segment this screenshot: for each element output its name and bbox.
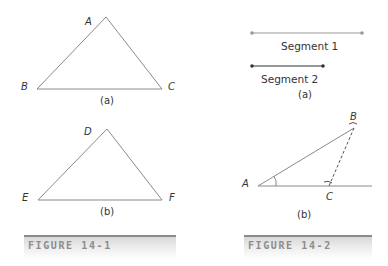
arc-mark-c (324, 181, 332, 183)
subfigure-label-2b: (b) (297, 209, 311, 220)
vertex-label-d: D (84, 126, 92, 137)
vertex-label-f: F (169, 192, 175, 203)
segment1-label: Segment 1 (281, 40, 338, 52)
arc-mark-b (349, 123, 357, 125)
figure-14-1-caption-bar: FIGURE 14-1 (24, 235, 176, 259)
triangle-abc: A B C (a) (21, 16, 175, 106)
subfigure-label-a: (a) (100, 95, 114, 106)
vertex-label-b: B (21, 81, 28, 92)
figures-canvas: A B C (a) D E F (b) Segment 1 Segment 2 … (0, 0, 388, 266)
segment1-endpoint (250, 31, 254, 35)
point-label-b: B (350, 111, 357, 122)
point-label-a: A (241, 178, 249, 189)
vertex-label-a: A (84, 16, 92, 27)
subfigure-label-b: (b) (100, 206, 114, 217)
figure-14-2-caption: FIGURE 14-2 (248, 240, 332, 251)
subfigure-label-2a: (a) (298, 89, 312, 100)
angle-arc (274, 176, 276, 186)
figure-14-2-caption-bar: FIGURE 14-2 (244, 235, 372, 259)
point-label-c: C (326, 191, 333, 202)
segment2-label: Segment 2 (261, 73, 318, 85)
segment2-endpoint (250, 64, 254, 68)
vertex-label-c: C (168, 81, 175, 92)
vertex-label-e: E (22, 192, 29, 203)
segments-diagram: Segment 1 Segment 2 (a) (250, 31, 364, 100)
segment1-endpoint (360, 31, 364, 35)
triangle-def: D E F (b) (22, 126, 175, 217)
angle-construction: B A C (b) (241, 111, 372, 220)
figure-14-1-caption: FIGURE 14-1 (28, 240, 112, 251)
segment2-endpoint (321, 64, 325, 68)
